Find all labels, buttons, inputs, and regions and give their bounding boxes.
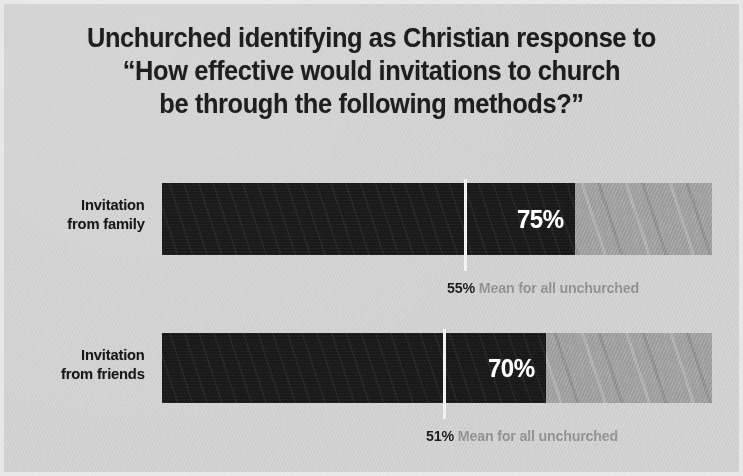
chart-title: Unchurched identifying as Christian resp… <box>22 22 720 121</box>
chart-figure: Unchurched identifying as Christian resp… <box>0 0 743 476</box>
bar-track-invitation-from-friends: 70% <box>162 333 712 403</box>
chart-title-line-1: Unchurched identifying as Christian resp… <box>22 22 720 55</box>
mean-caption-invitation-from-family: Mean for all unchurched <box>479 279 639 296</box>
bar-label-line-2: from family <box>17 214 144 233</box>
bar-fill-invitation-from-friends: 70% <box>162 333 546 403</box>
bar-label-invitation-from-friends: Invitation from friends <box>17 345 144 383</box>
mean-caption-invitation-from-friends: Mean for all unchurched <box>458 427 618 444</box>
mean-value-invitation-from-family: 55% <box>447 279 475 296</box>
mean-value-invitation-from-friends: 51% <box>426 427 454 444</box>
mean-annotation-invitation-from-friends: 51%Mean for all unchurched <box>426 427 618 444</box>
chart-title-line-2: “How effective would invitations to chur… <box>22 55 720 88</box>
bar-fill-invitation-from-family: 75% <box>162 183 575 255</box>
mean-marker-line-invitation-from-family <box>464 179 467 271</box>
bar-label-invitation-from-family: Invitation from family <box>17 195 144 233</box>
mean-marker-line-invitation-from-friends <box>443 329 446 419</box>
chart-title-line-3: be through the following methods?” <box>22 88 720 121</box>
bar-label-line-1: Invitation <box>17 345 144 364</box>
bar-track-invitation-from-family: 75% <box>162 183 712 255</box>
bar-value-invitation-from-friends: 70% <box>488 354 535 383</box>
bar-label-line-2: from friends <box>17 364 144 383</box>
bar-label-line-1: Invitation <box>17 195 144 214</box>
bar-value-invitation-from-family: 75% <box>517 205 564 234</box>
mean-annotation-invitation-from-family: 55%Mean for all unchurched <box>447 279 639 296</box>
